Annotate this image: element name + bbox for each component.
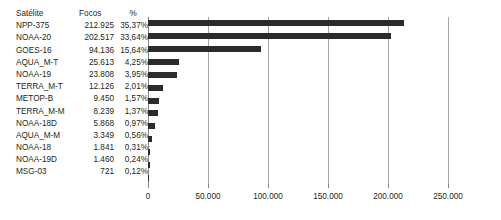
table-row: NOAA-19D1.4600,24% bbox=[16, 154, 148, 166]
table-body: NPP-375212.92535,37%NOAA-20202.51733,64%… bbox=[16, 20, 148, 178]
bar-npp-375 bbox=[148, 20, 404, 26]
bar-metop-b bbox=[148, 98, 159, 104]
row-focos: 12.126 bbox=[74, 81, 118, 93]
row-percent: 4,25% bbox=[118, 57, 148, 69]
bar-noaa-18 bbox=[148, 149, 150, 155]
row-percent: 0,97% bbox=[118, 118, 148, 130]
table-row: NOAA-1923.8083,95% bbox=[16, 69, 148, 81]
x-axis-tick bbox=[268, 184, 269, 188]
gridline bbox=[208, 17, 209, 184]
row-satellite: TERRA_M-T bbox=[16, 81, 74, 93]
table-row: NOAA-18D5.8680,97% bbox=[16, 118, 148, 130]
bar-aqua-m-t bbox=[148, 59, 179, 65]
x-axis-tick bbox=[328, 184, 329, 188]
table-row: TERRA_M-T12.1262,01% bbox=[16, 81, 148, 93]
row-percent: 0,56% bbox=[118, 130, 148, 142]
x-axis-tick bbox=[208, 184, 209, 188]
row-satellite: NPP-375 bbox=[16, 20, 74, 32]
row-focos: 212.925 bbox=[74, 20, 118, 32]
bar-terra-m-m bbox=[148, 110, 158, 116]
row-focos: 202.517 bbox=[74, 32, 118, 44]
row-satellite: NOAA-18D bbox=[16, 118, 74, 130]
row-percent: 2,01% bbox=[118, 81, 148, 93]
row-satellite: MSG-03 bbox=[16, 166, 74, 178]
row-satellite: METOP-B bbox=[16, 93, 74, 105]
table-row: GOES-1694.13615,64% bbox=[16, 45, 148, 57]
bar-noaa-19 bbox=[148, 72, 177, 78]
row-satellite: NOAA-19 bbox=[16, 69, 74, 81]
column-header-percent: % bbox=[118, 8, 148, 20]
table-row: MSG-037210,12% bbox=[16, 166, 148, 178]
row-focos: 3.349 bbox=[74, 130, 118, 142]
bar-chart-plot-area: 050.000100.000150.000200.000250.000 bbox=[148, 17, 448, 184]
gridline bbox=[448, 17, 449, 184]
x-axis-tick-label: 150.000 bbox=[313, 192, 343, 201]
bar-noaa-19d bbox=[148, 162, 150, 168]
table-row: AQUA_M-T25.6134,25% bbox=[16, 57, 148, 69]
row-focos: 9.450 bbox=[74, 93, 118, 105]
table-row: METOP-B9.4501,57% bbox=[16, 93, 148, 105]
row-satellite: TERRA_M-M bbox=[16, 106, 74, 118]
x-axis-tick bbox=[448, 184, 449, 188]
table-row: TERRA_M-M8.2391,37% bbox=[16, 106, 148, 118]
gridline bbox=[328, 17, 329, 184]
row-satellite: AQUA_M-M bbox=[16, 130, 74, 142]
row-focos: 8.239 bbox=[74, 106, 118, 118]
row-focos: 721 bbox=[74, 166, 118, 178]
x-axis-tick-label: 100.000 bbox=[253, 192, 283, 201]
row-percent: 1,57% bbox=[118, 93, 148, 105]
chart-page: Satélite Focos % NPP-375212.92535,37%NOA… bbox=[0, 0, 501, 220]
row-focos: 1.460 bbox=[74, 154, 118, 166]
row-satellite: NOAA-19D bbox=[16, 154, 74, 166]
row-satellite: AQUA_M-T bbox=[16, 57, 74, 69]
table-row: NPP-375212.92535,37% bbox=[16, 20, 148, 32]
data-table: Satélite Focos % NPP-375212.92535,37%NOA… bbox=[16, 8, 148, 179]
bar-aqua-m-m bbox=[148, 136, 152, 142]
x-axis-tick bbox=[148, 184, 149, 188]
bar-msg-03 bbox=[148, 175, 149, 181]
row-percent: 0,12% bbox=[118, 166, 148, 178]
x-axis-tick-label: 0 bbox=[146, 192, 151, 201]
row-percent: 3,95% bbox=[118, 69, 148, 81]
gridline bbox=[388, 17, 389, 184]
table-row: NOAA-181.8410,31% bbox=[16, 142, 148, 154]
row-percent: 33,64% bbox=[118, 32, 148, 44]
row-percent: 15,64% bbox=[118, 45, 148, 57]
row-percent: 1,37% bbox=[118, 106, 148, 118]
row-satellite: NOAA-20 bbox=[16, 32, 74, 44]
row-percent: 0,31% bbox=[118, 142, 148, 154]
table-row: NOAA-20202.51733,64% bbox=[16, 32, 148, 44]
bar-goes-16 bbox=[148, 46, 261, 52]
row-focos: 23.808 bbox=[74, 69, 118, 81]
gridline bbox=[268, 17, 269, 184]
bar-noaa-20 bbox=[148, 33, 391, 39]
row-percent: 0,24% bbox=[118, 154, 148, 166]
row-focos: 94.136 bbox=[74, 45, 118, 57]
bar-noaa-18d bbox=[148, 123, 155, 129]
row-satellite: GOES-16 bbox=[16, 45, 74, 57]
x-axis-tick-label: 50.000 bbox=[195, 192, 220, 201]
table-row: AQUA_M-M3.3490,56% bbox=[16, 130, 148, 142]
x-axis-tick-label: 250.000 bbox=[433, 192, 463, 201]
bar-terra-m-t bbox=[148, 85, 163, 91]
column-header-satellite: Satélite bbox=[16, 8, 73, 20]
row-percent: 35,37% bbox=[118, 20, 148, 32]
x-axis-tick bbox=[388, 184, 389, 188]
row-focos: 25.613 bbox=[74, 57, 118, 69]
row-focos: 5.868 bbox=[74, 118, 118, 130]
row-focos: 1.841 bbox=[74, 142, 118, 154]
row-satellite: NOAA-18 bbox=[16, 142, 74, 154]
column-header-focos: Focos bbox=[73, 8, 118, 20]
table-header-row: Satélite Focos % bbox=[16, 8, 148, 20]
x-axis-tick-label: 200.000 bbox=[373, 192, 403, 201]
